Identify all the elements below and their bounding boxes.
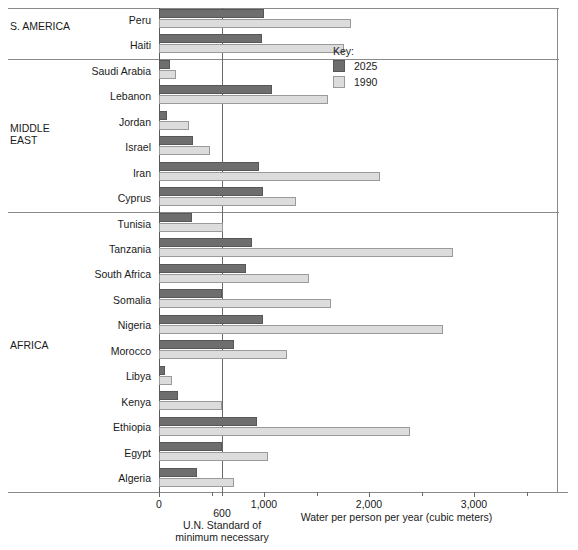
bar-2025: [159, 417, 257, 426]
group-label: AFRICA: [10, 340, 49, 352]
bar-2025: [159, 111, 167, 120]
bar-1990: [159, 401, 222, 410]
category-label: Egypt: [124, 447, 151, 459]
bar-1990: [159, 44, 344, 53]
bar-1990: [159, 223, 223, 232]
bar-1990: [159, 299, 331, 308]
category-label: Morocco: [111, 345, 151, 357]
bar-row: [159, 339, 558, 364]
legend-swatch-icon-1990: [333, 76, 345, 88]
category-label: Peru: [129, 14, 151, 26]
bar-1990: [159, 376, 172, 385]
x-tick-major: [159, 492, 160, 497]
bar-2025: [159, 9, 264, 18]
bar-1990: [159, 172, 380, 181]
bar-2025: [159, 468, 197, 477]
category-label: Nigeria: [118, 319, 151, 331]
legend-entry-1990: 1990: [333, 76, 377, 88]
x-tick-label: 0: [156, 498, 162, 510]
bar-row: [159, 467, 558, 492]
bar-row: [159, 390, 558, 415]
group-label: MIDDLE EAST: [10, 123, 50, 146]
category-label: Saudi Arabia: [91, 65, 151, 77]
x-axis-title: Water per person per year (cubic meters): [301, 511, 493, 523]
bar-2025: [159, 442, 222, 451]
bar-row: [159, 8, 558, 33]
x-tick-major: [474, 492, 475, 497]
x-tick-minor: [422, 492, 423, 496]
category-label: Somalia: [113, 294, 151, 306]
bar-2025: [159, 238, 252, 247]
bar-1990: [159, 325, 443, 334]
bar-2025: [159, 366, 165, 375]
bar-2025: [159, 162, 259, 171]
bar-2025: [159, 264, 246, 273]
category-label: Haiti: [130, 39, 151, 51]
x-tick-minor: [222, 492, 223, 496]
bar-1990: [159, 350, 287, 359]
bar-2025: [159, 213, 192, 222]
category-label: Lebanon: [110, 90, 151, 102]
bar-row: [159, 186, 558, 211]
bar-1990: [159, 274, 309, 283]
bar-2025: [159, 289, 222, 298]
legend-swatch-icon-2025: [333, 60, 345, 72]
bar-2025: [159, 85, 272, 94]
group-label: S. AMERICA: [10, 21, 70, 33]
category-label: Israel: [125, 141, 151, 153]
bar-row: [159, 110, 558, 135]
bar-2025: [159, 315, 263, 324]
legend-label-1990: 1990: [354, 76, 377, 88]
category-label: Jordan: [119, 116, 151, 128]
bar-2025: [159, 34, 262, 43]
bar-1990: [159, 248, 453, 257]
legend-label-2025: 2025: [354, 60, 377, 72]
bar-1990: [159, 478, 234, 487]
x-tick-major: [369, 492, 370, 497]
bar-1990: [159, 95, 328, 104]
category-label: Libya: [126, 370, 151, 382]
bar-row: [159, 416, 558, 441]
water-per-person-bar-chart: PeruHaitiSaudi ArabiaLebanonJordanIsrael…: [0, 0, 578, 550]
category-label: Algeria: [118, 472, 151, 484]
bar-row: [159, 212, 558, 237]
legend-title: Key:: [333, 45, 377, 57]
bar-1990: [159, 19, 351, 28]
bar-2025: [159, 187, 263, 196]
x-tick-label: 1,000: [251, 498, 277, 510]
bar-row: [159, 365, 558, 390]
category-label: Iran: [133, 167, 151, 179]
bar-row: [159, 314, 558, 339]
x-tick-minor: [317, 492, 318, 496]
un-standard-note: U.N. Standard of minimum necessary: [175, 519, 268, 543]
legend-entry-2025: 2025: [333, 60, 377, 72]
category-axis-labels: PeruHaitiSaudi ArabiaLebanonJordanIsrael…: [0, 8, 155, 492]
bar-1990: [159, 146, 210, 155]
bar-2025: [159, 391, 178, 400]
bar-2025: [159, 340, 234, 349]
bar-row: [159, 441, 558, 466]
category-label: Cyprus: [118, 192, 151, 204]
bar-1990: [159, 427, 410, 436]
legend: Key: 2025 1990: [333, 45, 377, 92]
x-axis-baseline: [8, 492, 568, 493]
bar-row: [159, 135, 558, 160]
x-tick-major: [264, 492, 265, 497]
x-tick-label: 2,000: [356, 498, 382, 510]
bar-1990: [159, 121, 189, 130]
bar-2025: [159, 60, 170, 69]
x-tick-minor: [527, 492, 528, 496]
category-label: Ethiopia: [113, 421, 151, 433]
bar-row: [159, 161, 558, 186]
reference-line-tick-label: 600: [213, 507, 231, 519]
bar-row: [159, 237, 558, 262]
bar-1990: [159, 70, 176, 79]
x-tick-label: 3,000: [461, 498, 487, 510]
bar-2025: [159, 136, 193, 145]
category-label: Tunisia: [118, 218, 151, 230]
x-tick-minor: [212, 492, 213, 496]
bar-1990: [159, 197, 296, 206]
bar-row: [159, 263, 558, 288]
category-label: Kenya: [121, 396, 151, 408]
category-label: South Africa: [94, 268, 151, 280]
